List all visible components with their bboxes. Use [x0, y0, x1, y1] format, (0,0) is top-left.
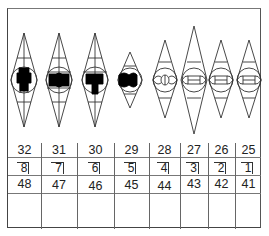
tooth-diagram: [0, 0, 269, 140]
fdi-number: 46: [77, 179, 114, 193]
position-number: 6: [91, 163, 101, 174]
tooth-29-icon[interactable]: [118, 52, 142, 108]
fdi-number: 47: [41, 178, 77, 192]
tooth-28-icon[interactable]: [153, 40, 177, 118]
note-cell[interactable]: [235, 194, 262, 228]
tooth-number: 29: [114, 143, 149, 157]
note-cell[interactable]: [149, 194, 180, 228]
tooth-number: 31: [41, 143, 77, 157]
position-number: 8: [20, 163, 30, 174]
tooth-31-icon[interactable]: [46, 33, 72, 127]
tooth-number: 28: [149, 143, 180, 157]
fdi-number: 41: [235, 177, 262, 191]
row-divider: [8, 175, 261, 176]
fdi-number: 42: [208, 177, 235, 191]
row-divider: [8, 157, 261, 158]
tooth-number: 26: [208, 143, 235, 157]
fdi-number: 43: [180, 177, 208, 191]
position-number: 7: [54, 163, 64, 174]
fdi-number: 44: [149, 179, 180, 193]
position-number: 3: [189, 163, 199, 174]
tooth-30-icon[interactable]: [82, 33, 108, 127]
note-cell[interactable]: [41, 194, 77, 228]
note-cell[interactable]: [77, 194, 114, 228]
position-number: 1: [244, 163, 254, 174]
tooth-32-icon[interactable]: [11, 33, 37, 127]
tooth-26-icon[interactable]: [209, 40, 233, 118]
notes-row: [8, 194, 260, 228]
note-cell[interactable]: [208, 194, 235, 228]
position-number: 4: [160, 163, 170, 174]
tooth-25-icon[interactable]: [237, 40, 261, 118]
tooth-number: 30: [77, 143, 114, 157]
tooth-number: 25: [235, 143, 262, 157]
note-cell[interactable]: [8, 194, 41, 228]
tooth-27-icon[interactable]: [181, 26, 207, 134]
tooth-number: 27: [180, 143, 208, 157]
position-number: 2: [217, 163, 227, 174]
note-cell[interactable]: [114, 194, 149, 228]
position-number: 5: [127, 163, 137, 174]
fdi-number: 45: [114, 178, 149, 192]
tooth-number: 32: [8, 143, 41, 157]
fdi-number: 48: [8, 177, 41, 191]
note-cell[interactable]: [180, 194, 208, 228]
